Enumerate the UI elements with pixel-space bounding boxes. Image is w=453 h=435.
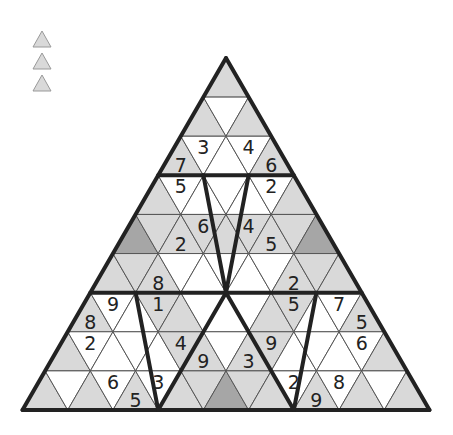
- cell-shape: [203, 58, 248, 97]
- cell-r1-p1[interactable]: [203, 58, 248, 97]
- puzzle-board: 734652264582891575249396653298: [0, 0, 453, 435]
